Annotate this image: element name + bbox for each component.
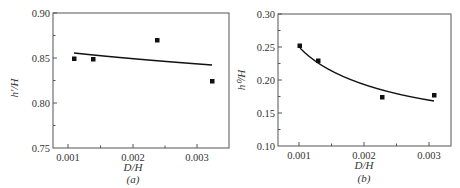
y-tick-a-0: 0.90 <box>32 8 50 19</box>
y-axis-label-b: h⁰/H <box>235 69 247 91</box>
x-tick-a-2: 0.003 <box>185 152 209 163</box>
x-tick-b-2: 0.003 <box>417 150 441 161</box>
data-points-a <box>72 38 215 84</box>
y-tick-a-3: 0.75 <box>32 143 50 154</box>
y-tick-b-4: 0.10 <box>257 141 275 152</box>
y-axis-b <box>278 14 282 130</box>
x-tick-b-0: 0.001 <box>287 150 311 161</box>
y-tick-a-1: 0.85 <box>32 53 50 64</box>
y-tick-b-3: 0.15 <box>257 108 275 119</box>
panel-label-b: (b) <box>358 172 371 185</box>
y-axis-label-a: h'/H <box>8 78 20 98</box>
x-axis-b <box>299 142 429 146</box>
y-tick-a-2: 0.80 <box>32 98 50 109</box>
panel-label-a: (a) <box>127 173 140 186</box>
x-tick-a-0: 0.001 <box>56 152 80 163</box>
plot-frame-b <box>278 14 451 146</box>
chart-b: 0.30 0.25 0.20 0.15 0.10 0.001 0.002 0.0… <box>235 9 451 185</box>
chart-a: 0.90 0.85 0.80 0.75 0.001 0.002 0.003 D/… <box>8 8 229 186</box>
fit-line-b <box>300 48 434 101</box>
y-tick-b-2: 0.20 <box>257 75 275 86</box>
y-tick-b-1: 0.25 <box>257 42 275 53</box>
y-tick-b-0: 0.30 <box>257 9 275 20</box>
y-axis-a <box>53 13 57 126</box>
x-axis-label-b: D/H <box>354 159 375 171</box>
x-axis-a <box>68 144 197 148</box>
plot-frame-a <box>53 13 229 148</box>
x-axis-label-a: D/H <box>123 161 144 173</box>
data-points-b <box>298 44 437 100</box>
